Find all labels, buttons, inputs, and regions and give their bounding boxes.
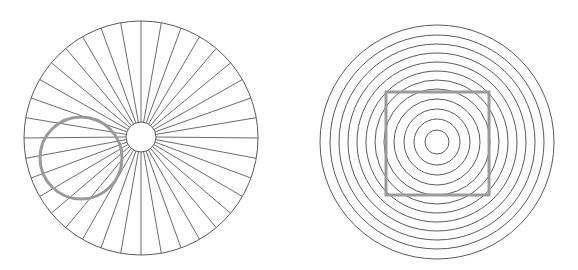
illusion-canvas [0, 0, 578, 270]
spoke-line [152, 147, 230, 214]
spoke-line [155, 142, 251, 178]
concentric-ring [425, 130, 449, 154]
concentric-ring [414, 119, 460, 165]
spoke-line [31, 142, 127, 178]
concentric-ring [330, 35, 544, 249]
overlay-square [386, 92, 489, 195]
concentric-ring [394, 99, 480, 185]
radial-spokes-figure [24, 21, 258, 255]
spoke-line [151, 148, 217, 227]
spoke-line [101, 151, 136, 248]
spoke-line [156, 140, 256, 159]
concentric-rings-figure [320, 25, 554, 259]
spoke-line [156, 137, 258, 138]
overlay-circle [40, 117, 122, 199]
concentric-ring [339, 44, 535, 240]
spoke-line [146, 151, 181, 248]
spoke-line [154, 145, 242, 197]
concentric-ring [384, 89, 490, 195]
spoke-line [51, 147, 129, 214]
hub-circle [126, 122, 156, 152]
spoke-line [24, 137, 126, 138]
concentric-ring [320, 25, 554, 259]
concentric-ring [357, 62, 517, 222]
